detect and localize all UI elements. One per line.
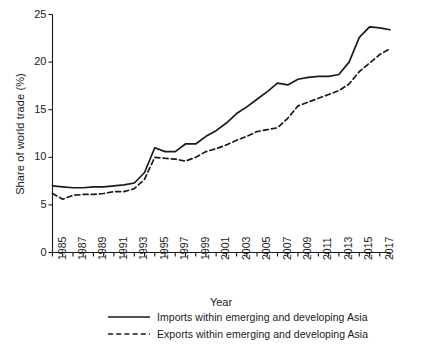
y-tick-label: 20 bbox=[21, 56, 47, 67]
x-tick-label: 1993 bbox=[138, 236, 149, 259]
chart-figure: Share of world trade (%) 0510152025 1985… bbox=[0, 0, 424, 354]
x-tick-label: 2001 bbox=[220, 236, 231, 259]
x-tick-label: 2011 bbox=[322, 237, 333, 260]
x-tick-label: 2003 bbox=[241, 236, 252, 259]
y-tick-label: 15 bbox=[21, 104, 47, 115]
x-tick-label: 1987 bbox=[77, 236, 88, 259]
x-tick-label: 1999 bbox=[200, 236, 211, 259]
y-tick-label: 10 bbox=[21, 151, 47, 162]
legend-label-exports: Exports within emerging and developing A… bbox=[157, 328, 368, 340]
y-tick-label: 0 bbox=[21, 247, 47, 258]
x-tick-label: 1995 bbox=[159, 236, 170, 259]
y-tick-label: 5 bbox=[21, 199, 47, 210]
series-lines bbox=[53, 27, 391, 199]
x-tick-label: 1985 bbox=[57, 236, 68, 259]
x-tick-label: 1997 bbox=[179, 236, 190, 259]
legend-label-imports: Imports within emerging and developing A… bbox=[157, 311, 368, 323]
legend-key-dashed-icon bbox=[108, 329, 150, 339]
x-tick-label: 2005 bbox=[261, 236, 272, 259]
x-tick-label: 2009 bbox=[302, 236, 313, 259]
x-tick-label: 2015 bbox=[363, 236, 374, 259]
x-axis-label: Year bbox=[52, 296, 390, 308]
x-tick-label: 1991 bbox=[118, 236, 129, 259]
y-tick-label: 25 bbox=[21, 9, 47, 20]
x-tick-label: 2017 bbox=[384, 236, 395, 259]
legend-item: Imports within emerging and developing A… bbox=[108, 308, 408, 325]
chart-legend: Imports within emerging and developing A… bbox=[108, 308, 408, 342]
legend-item: Exports within emerging and developing A… bbox=[108, 325, 408, 342]
legend-key-solid-icon bbox=[108, 312, 150, 322]
x-tick-label: 2013 bbox=[343, 236, 354, 259]
x-tick-label: 2007 bbox=[282, 236, 293, 259]
series-line-imports bbox=[53, 27, 391, 188]
axis-ticks bbox=[49, 15, 391, 257]
x-tick-label: 1989 bbox=[97, 236, 108, 259]
series-line-exports bbox=[53, 49, 391, 199]
axis-lines bbox=[53, 15, 391, 253]
